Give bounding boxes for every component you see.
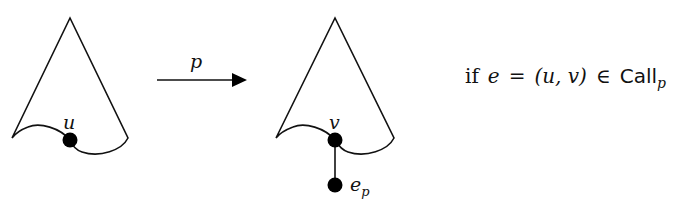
cond-e: e [488,64,500,88]
node-e-p [328,178,343,193]
transform-arrow: p [157,50,247,87]
svg-text:if e = (u, v: if e = (u, v) ∈ Callp [465,64,666,91]
cond-set-name: Call [620,64,657,88]
node-v [328,133,343,148]
right-tree: v ep [276,18,394,199]
label-u: u [63,111,75,133]
arrowhead-icon [232,73,247,87]
cond-set-sub: p [657,75,666,91]
node-u [63,133,78,148]
diagram-canvas: u p v ep if e = (u, v) ∈ Callp [0,0,688,207]
cond-if: if [465,64,480,88]
arrow-label-p: p [190,50,202,72]
label-v: v [329,111,340,133]
cond-equals: = [509,64,526,88]
label-e-p-sub: p [361,184,370,199]
cond-pair: (u, v) [534,64,587,88]
left-tree: u [12,18,128,154]
condition-text: if e = (u, v) ∈ Callp [465,64,666,91]
label-e-p: ep [350,173,370,199]
cond-member: ∈ [596,64,611,88]
label-e-p-base: e [350,173,361,195]
